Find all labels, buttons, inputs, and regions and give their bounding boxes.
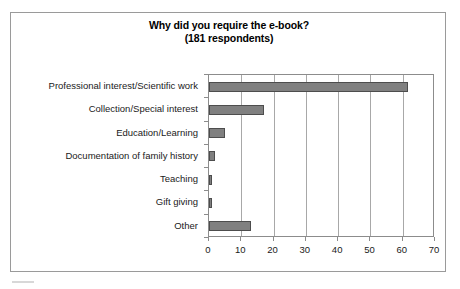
figure-container: Why did you require the e-book? (181 res… xyxy=(0,0,460,289)
y-label-other: Other xyxy=(174,214,198,237)
x-tick-label-50: 50 xyxy=(364,244,375,255)
x-tick-40 xyxy=(337,237,338,241)
x-tick-label-10: 10 xyxy=(235,244,246,255)
bar-row-collection-special-interest xyxy=(209,98,433,121)
bar-teaching[interactable] xyxy=(209,175,212,185)
chart-subtitle: (181 respondents) xyxy=(11,32,447,45)
y-label-documentation-family-history: Documentation of family history xyxy=(65,144,198,167)
x-tick-30 xyxy=(305,237,306,241)
bar-row-gift-giving xyxy=(209,191,433,214)
bar-row-other xyxy=(209,215,433,238)
x-tick-70 xyxy=(434,237,435,241)
x-tick-20 xyxy=(273,237,274,241)
bar-gift-giving[interactable] xyxy=(209,198,212,208)
chart-frame: Why did you require the e-book? (181 res… xyxy=(10,12,446,272)
chart-title-line1: Why did you require the e-book? xyxy=(149,19,309,31)
y-label-gift-giving: Gift giving xyxy=(156,190,198,213)
x-tick-50 xyxy=(369,237,370,241)
y-axis-category-labels: Professional interest/Scientific work Co… xyxy=(11,74,204,237)
page-artifact xyxy=(12,281,34,283)
x-tick-60 xyxy=(402,237,403,241)
x-tick-0 xyxy=(208,237,209,241)
x-tick-label-70: 70 xyxy=(429,244,440,255)
y-label-collection-special-interest: Collection/Special interest xyxy=(89,97,198,120)
y-label-professional-interest: Professional interest/Scientific work xyxy=(49,74,198,97)
bar-other[interactable] xyxy=(209,221,251,231)
bar-row-professional-interest-scientific-work xyxy=(209,75,433,98)
plot-area xyxy=(208,74,434,237)
bar-row-teaching xyxy=(209,168,433,191)
bar-row-documentation-of-family-history xyxy=(209,145,433,168)
y-label-education-learning: Education/Learning xyxy=(116,121,198,144)
x-tick-label-20: 20 xyxy=(267,244,278,255)
x-tick-10 xyxy=(240,237,241,241)
bar-documentation-of-family-history[interactable] xyxy=(209,151,215,161)
bar-row-education-learning xyxy=(209,122,433,145)
x-tick-label-30: 30 xyxy=(300,244,311,255)
x-tick-label-40: 40 xyxy=(332,244,343,255)
x-tick-label-60: 60 xyxy=(396,244,407,255)
x-tick-label-0: 0 xyxy=(205,244,210,255)
x-axis: 010203040506070 xyxy=(208,237,434,267)
bar-collection-special-interest[interactable] xyxy=(209,105,264,115)
chart-title: Why did you require the e-book? (181 res… xyxy=(11,19,447,45)
bar-professional-interest-scientific-work[interactable] xyxy=(209,82,408,92)
bar-education-learning[interactable] xyxy=(209,128,225,138)
y-label-teaching: Teaching xyxy=(160,167,198,190)
